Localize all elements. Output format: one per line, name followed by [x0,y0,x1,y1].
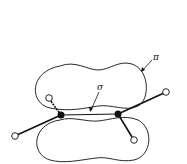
hydrogen-atom-left-upper [46,95,53,102]
carbon-atom-left [58,112,65,119]
hydrogen-atom-right-upper [163,89,170,96]
hydrogen-atom-right-lower [131,137,138,144]
carbon-atom-right [115,111,122,118]
pi-label: π [152,52,160,62]
ethylene-bond-diagram: π σ [0,0,187,164]
sigma-bond [61,114,118,115]
bond-c-h-left-lower [17,115,61,135]
sigma-leader-line [91,92,99,110]
sigma-label: σ [97,82,104,92]
pi-arrowhead-icon [141,67,145,72]
hydrogen-atom-left-lower [12,133,19,140]
bond-c-h-right-upper [118,93,164,114]
